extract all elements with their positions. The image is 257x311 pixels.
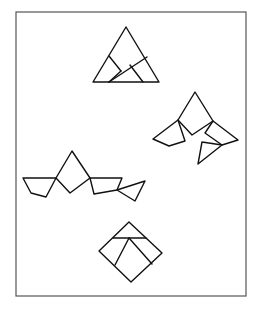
figure-scattered-right xyxy=(153,92,238,164)
piece-outline xyxy=(205,121,238,145)
piece-outline xyxy=(117,181,145,201)
piece-outline xyxy=(109,57,147,82)
piece-outline xyxy=(129,238,152,264)
piece-outline xyxy=(99,222,162,282)
piece-outline xyxy=(56,151,90,193)
piece-outline xyxy=(198,142,222,164)
piece-outline xyxy=(23,178,56,197)
piece-outline xyxy=(90,178,122,194)
diagram-canvas xyxy=(0,0,257,311)
piece-outline xyxy=(153,120,185,146)
figure-triangle xyxy=(93,27,159,82)
piece-outline xyxy=(115,238,129,265)
piece-outline xyxy=(130,65,143,82)
piece-outline xyxy=(109,56,121,71)
figure-diamond xyxy=(99,222,162,282)
piece-outline xyxy=(93,27,159,82)
figure-row-left xyxy=(23,151,145,201)
